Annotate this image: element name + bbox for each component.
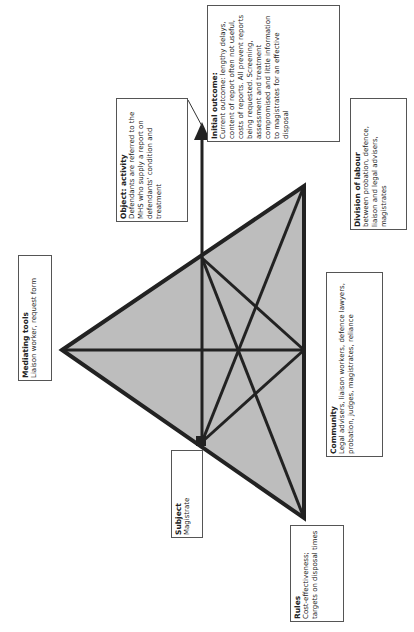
rules-title: Rules [293,530,302,619]
mediating-tools-box: Mediating tools Liaison worker, request … [18,255,52,381]
mediating-tools-title: Mediating tools [21,260,30,378]
outcome-box: Initial outcome: Current outcome: length… [207,5,340,142]
subject-node-icon [196,436,206,446]
outcome-text: Current outcome: lengthy delays, content… [219,15,290,139]
community-text: Legal advisers, liaison workers, defence… [338,283,355,454]
rules-box: Rules Cost-effectiveness; targets on dis… [290,525,344,622]
division-of-labour-box: Division of labour between probation, de… [350,98,407,230]
object-title: Object: activity [119,103,128,219]
division-title: Division of labour [353,103,362,227]
subject-text: Magistrate [183,498,191,535]
subject-title: Subject [174,455,183,535]
object-box: Object: activity Defendants are referred… [116,98,188,222]
object-text: Defendants are referred to the MHS who s… [128,112,163,219]
community-box: Community Legal advisers, liaison worker… [326,272,383,457]
subject-box: Subject Magistrate [171,450,203,538]
outcome-connector [188,100,203,128]
outcome-title: Initial outcome: [210,10,219,139]
mediating-tools-text: Liaison worker, request form [30,278,38,378]
division-text: between probation, defence, liaison and … [362,126,388,227]
community-title: Community [329,277,338,454]
rules-text: Cost-effectiveness; targets on disposal … [302,531,319,619]
